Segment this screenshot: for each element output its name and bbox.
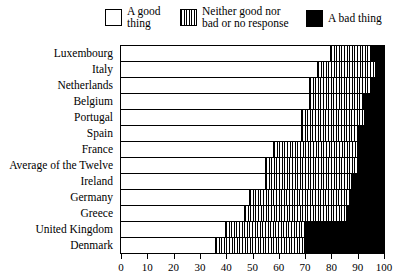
axis-tick xyxy=(384,253,385,259)
bar-segment-bad xyxy=(352,174,384,189)
bar-segment-good xyxy=(121,206,245,221)
legend-label-good: A good thing xyxy=(127,6,161,29)
category-label: Denmark xyxy=(0,237,116,253)
category-label: Average of the Twelve xyxy=(0,157,116,173)
bar-segment-neither xyxy=(318,62,376,77)
bar-segment-bad xyxy=(347,206,384,221)
table-row xyxy=(121,190,384,206)
table-row xyxy=(121,126,384,142)
bar-segment-good xyxy=(121,78,310,93)
bar-segment-good xyxy=(121,46,331,61)
bar-segment-good xyxy=(121,174,266,189)
category-label: France xyxy=(0,141,116,157)
bar-segment-neither xyxy=(266,158,358,173)
category-label: Spain xyxy=(0,125,116,141)
table-row xyxy=(121,110,384,126)
bar-segment-neither xyxy=(310,78,370,93)
chart-legend: A good thing Neither good nor bad or no … xyxy=(0,0,395,40)
table-row xyxy=(121,78,384,94)
category-axis-labels: LuxembourgItalyNetherlandsBelgiumPortuga… xyxy=(0,45,116,253)
value-axis: 0102030405060708090100 xyxy=(120,253,385,279)
hatched-square-icon xyxy=(180,9,197,26)
category-label: Germany xyxy=(0,189,116,205)
bar-segment-bad xyxy=(358,142,384,157)
bar-segment-bad xyxy=(366,110,384,125)
axis-tick xyxy=(147,253,148,259)
axis-tick xyxy=(358,253,359,259)
axis-tick xyxy=(305,253,306,259)
axis-tick xyxy=(253,253,254,259)
bar-segment-bad xyxy=(358,126,384,141)
bar-segment-neither xyxy=(331,46,370,61)
table-row xyxy=(121,158,384,174)
bar-segment-good xyxy=(121,110,302,125)
axis-tick xyxy=(200,253,201,259)
table-row xyxy=(121,222,384,238)
bar-segment-neither xyxy=(274,142,358,157)
bar-segment-neither xyxy=(245,206,348,221)
category-label: United Kingdom xyxy=(0,221,116,237)
bar-segment-bad xyxy=(305,222,384,237)
bar-segment-good xyxy=(121,222,226,237)
category-label: Greece xyxy=(0,205,116,221)
bar-segment-good xyxy=(121,126,302,141)
category-label: Luxembourg xyxy=(0,45,116,61)
table-row xyxy=(121,46,384,62)
table-row xyxy=(121,94,384,110)
category-label: Portugal xyxy=(0,109,116,125)
table-row xyxy=(121,174,384,190)
table-row xyxy=(121,238,384,254)
legend-item-neither: Neither good nor bad or no response xyxy=(180,6,289,29)
plot-frame xyxy=(120,45,385,253)
category-label: Netherlands xyxy=(0,77,116,93)
bar-segment-neither xyxy=(310,94,363,109)
bar-segment-good xyxy=(121,238,216,254)
axis-tick xyxy=(279,253,280,259)
bar-segment-neither xyxy=(266,174,353,189)
table-row xyxy=(121,62,384,78)
axis-tick-label: 100 xyxy=(369,261,395,273)
bar-segment-neither xyxy=(302,126,357,141)
bar-segment-neither xyxy=(302,110,365,125)
legend-item-good: A good thing xyxy=(105,6,161,29)
bar-segment-good xyxy=(121,158,266,173)
category-label: Belgium xyxy=(0,93,116,109)
bar-segment-bad xyxy=(376,62,384,77)
bar-segment-neither xyxy=(226,222,305,237)
bar-segment-bad xyxy=(363,94,384,109)
table-row xyxy=(121,206,384,222)
category-label: Ireland xyxy=(0,173,116,189)
bar-segment-neither xyxy=(250,190,350,205)
bar-segment-bad xyxy=(371,78,384,93)
bar-segment-good xyxy=(121,94,310,109)
bar-segment-neither xyxy=(216,238,305,254)
bar-segment-bad xyxy=(371,46,384,61)
legend-item-bad: A bad thing xyxy=(306,10,382,27)
black-square-icon xyxy=(306,10,323,27)
axis-tick xyxy=(226,253,227,259)
legend-label-neither: Neither good nor bad or no response xyxy=(202,6,289,29)
bar-segment-good xyxy=(121,142,274,157)
axis-tick xyxy=(174,253,175,259)
table-row xyxy=(121,142,384,158)
white-square-icon xyxy=(105,9,122,26)
chart-area: LuxembourgItalyNetherlandsBelgiumPortuga… xyxy=(0,40,395,279)
category-label: Italy xyxy=(0,61,116,77)
bar-segment-good xyxy=(121,62,318,77)
bar-segment-bad xyxy=(358,158,384,173)
legend-label-bad: A bad thing xyxy=(328,13,382,25)
bar-segment-bad xyxy=(350,190,384,205)
bar-segment-good xyxy=(121,190,250,205)
axis-tick xyxy=(331,253,332,259)
bar-segment-bad xyxy=(305,238,384,254)
axis-tick xyxy=(121,253,122,259)
